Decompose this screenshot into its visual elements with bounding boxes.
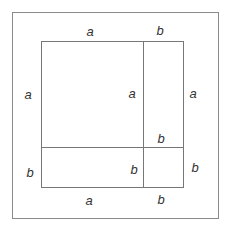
label-right-a: a	[189, 87, 196, 100]
label-inner-a: a	[128, 87, 135, 100]
label-left-a: a	[24, 88, 31, 101]
label-bottom-a: a	[85, 194, 92, 207]
label-bottom-b: b	[157, 193, 164, 206]
label-right-b: b	[191, 161, 198, 174]
label-top-a: a	[86, 25, 93, 38]
label-inner-b-right: b	[130, 163, 137, 176]
big-square	[42, 42, 184, 188]
label-left-b: b	[26, 166, 33, 179]
label-top-b: b	[156, 24, 163, 37]
diagram-canvas	[0, 0, 229, 229]
label-inner-b-top: b	[157, 132, 164, 145]
